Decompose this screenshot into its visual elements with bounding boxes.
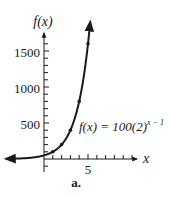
x-axis-label: x	[142, 151, 150, 166]
y-tick-label-500: 500	[21, 117, 41, 132]
y-axis-label: f(x)	[33, 14, 53, 30]
figure-caption: a.	[71, 175, 81, 190]
equation-lhs: f(x) = 100(2)	[79, 119, 147, 134]
y-tick-label-1500: 1500	[14, 45, 40, 60]
data-point	[51, 150, 55, 154]
equation-exponent: x − 1	[146, 118, 164, 127]
y-ticks	[44, 44, 49, 166]
data-point	[69, 128, 73, 132]
data-point	[60, 143, 64, 147]
x-ticks	[53, 154, 132, 159]
data-points	[51, 42, 90, 154]
y-tick-label-1000: 1000	[14, 81, 40, 96]
equation-label: f(x) = 100(2)x − 1	[79, 118, 164, 134]
data-point	[77, 100, 81, 104]
x-tick-label-5: 5	[85, 162, 92, 177]
data-point	[86, 42, 90, 46]
exponential-chart: 1500 1000 500 5 f(x) x f(x) = 100(2)x − …	[0, 0, 170, 197]
